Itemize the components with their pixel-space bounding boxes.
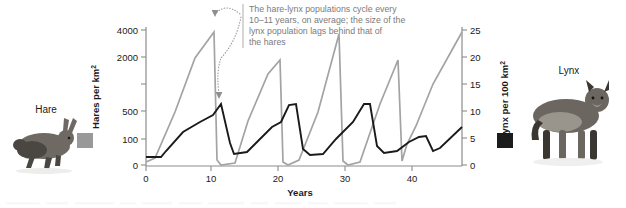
right-axis-title: Lynx per 100 km2 [499, 61, 511, 139]
x-tick-40: 40 [407, 173, 418, 184]
lynx-photo-label: Lynx [559, 65, 580, 76]
x-tick-20: 20 [273, 173, 284, 184]
right-tick-0: 0 [470, 160, 475, 171]
annotation-line-1: The hare-lynx populations cycle every [249, 4, 397, 14]
right-axis-title-exponent: 2 [499, 61, 506, 65]
x-tick-0: 0 [143, 173, 148, 184]
annotation-line-4: the hares [249, 37, 286, 47]
right-tick-20: 20 [470, 52, 481, 63]
x-tick-10: 10 [206, 173, 217, 184]
right-axis-title-text: Lynx per 100 km [499, 65, 510, 139]
right-tick-25: 25 [470, 25, 481, 36]
left-tick-0: 0 [133, 160, 138, 171]
left-tick-100: 100 [122, 134, 138, 145]
left-axis-title-exponent: 2 [90, 65, 97, 69]
svg-text:Lynx per 100 km2: Lynx per 100 km2 [499, 61, 511, 139]
hare-photo-label: Hare [35, 104, 57, 115]
svg-text:Hares per km2: Hares per km2 [90, 65, 102, 129]
right-tick-10: 10 [470, 106, 481, 117]
annotation-line-2: 10–11 years, on average; the size of the [249, 15, 405, 25]
left-axis-title-text: Hares per km [90, 69, 101, 129]
x-axis-title: Years [287, 187, 312, 198]
hare-lynx-population-cycle-figure: Hare Lynx [0, 0, 626, 208]
hare-color-swatch [77, 133, 93, 148]
right-tick-15: 15 [470, 79, 481, 90]
cropped-caption-strip [6, 202, 396, 204]
annotation-line-3: lynx population lags behind that of [249, 26, 383, 36]
left-tick-500: 500 [122, 106, 138, 117]
right-tick-5: 5 [470, 133, 475, 144]
x-tick-30: 30 [340, 173, 351, 184]
left-tick-4000: 4000 [117, 25, 138, 36]
left-tick-2000: 2000 [117, 52, 138, 63]
left-axis-title: Hares per km2 [90, 65, 102, 129]
